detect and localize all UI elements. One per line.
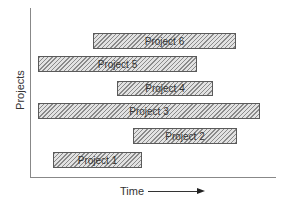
- x-axis-line: [30, 177, 276, 178]
- bar-project-1: Project 1: [53, 152, 142, 168]
- gantt-chart: Projects Time Project 6 Project 5 Projec…: [0, 0, 292, 207]
- bar-label: Project 3: [129, 106, 168, 117]
- bar-label: Project 5: [98, 59, 137, 70]
- arrow-right-icon: [197, 188, 205, 194]
- bar-label: Project 6: [145, 36, 184, 47]
- y-axis-line: [30, 8, 31, 178]
- bar-project-2: Project 2: [133, 128, 237, 144]
- bar-project-4: Project 4: [117, 81, 213, 96]
- time-arrow-line: [148, 191, 198, 192]
- bar-label: Project 4: [145, 83, 184, 94]
- bar-label: Project 1: [78, 155, 117, 166]
- bar-label: Project 2: [165, 131, 204, 142]
- bar-project-5: Project 5: [38, 56, 197, 72]
- bar-project-6: Project 6: [93, 33, 236, 49]
- x-axis-label: Time: [120, 185, 144, 197]
- y-axis-label: Projects: [14, 70, 26, 110]
- bar-project-3: Project 3: [38, 103, 260, 119]
